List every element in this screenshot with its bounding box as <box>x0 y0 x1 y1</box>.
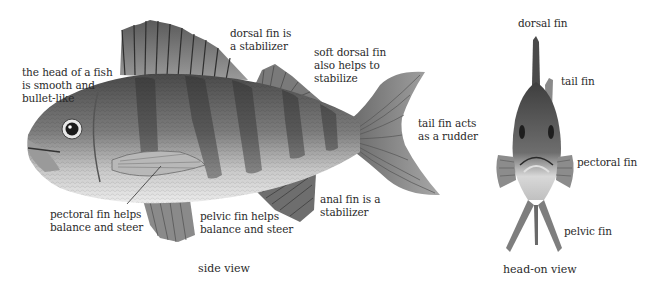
spiny-dorsal-fin <box>120 20 248 80</box>
label-tail-fin: tail fin acts as a rudder <box>418 117 478 143</box>
head-on-fish <box>496 36 573 252</box>
label-head-on-dorsal-fin: dorsal fin <box>518 17 567 30</box>
pelvic-fin <box>143 200 195 242</box>
head-on-eye-right <box>548 125 554 139</box>
pupil <box>66 123 79 136</box>
caption-side-view: side view <box>198 262 250 275</box>
head-on-dorsal-fin <box>532 36 540 85</box>
head-on-body <box>513 82 562 200</box>
head-on-anal-fin <box>534 205 538 245</box>
head-on-eye-left <box>519 125 525 139</box>
head-on-pectoral-fin-right <box>556 155 574 188</box>
label-head-on-pectoral-fin: pectoral fin <box>577 156 637 169</box>
label-head: the head of a fish is smooth and bullet-… <box>22 66 113 105</box>
label-pelvic-fin: pelvic fin helps balance and steer <box>200 210 293 236</box>
label-anal-fin: anal fin is a stabilizer <box>320 193 380 219</box>
head-on-pelvic-fin-left <box>506 200 534 252</box>
caption-head-on-view: head-on view <box>503 263 577 276</box>
label-dorsal-fin: dorsal fin is a stabilizer <box>230 27 291 53</box>
fish-illustrations <box>0 0 649 286</box>
label-head-on-pelvic-fin: pelvic fin <box>564 225 612 238</box>
label-head-on-tail-fin: tail fin <box>561 75 595 88</box>
head-on-pelvic-fin-right <box>538 200 562 252</box>
label-soft-dorsal-fin: soft dorsal fin also helps to stabilize <box>314 46 386 85</box>
eye-highlight <box>68 125 72 129</box>
label-pectoral-fin: pectoral fin helps balance and steer <box>50 208 143 234</box>
head-on-pectoral-fin-left <box>496 155 516 188</box>
